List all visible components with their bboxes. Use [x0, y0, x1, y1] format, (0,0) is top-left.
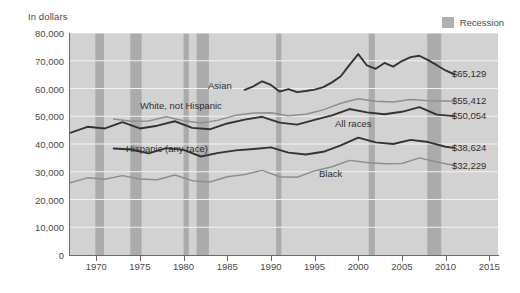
series-annotation: All races: [335, 118, 371, 129]
x-tick-label: 1980: [173, 261, 194, 272]
chart-legend: Recession: [442, 17, 504, 28]
series-end-label: $65,129: [452, 68, 486, 79]
series-end-label: $55,412: [452, 95, 486, 106]
series-line: [245, 54, 455, 92]
series-end-label: $32,229: [452, 160, 486, 171]
y-tick-label: 60,000: [35, 83, 64, 94]
y-axis-tick-labels: 010,00020,00030,00040,00050,00060,00070,…: [0, 0, 64, 293]
y-tick-label: 80,000: [35, 28, 64, 39]
y-tick-label: 50,000: [35, 111, 64, 122]
x-tick-label: 1995: [304, 261, 325, 272]
series-line: [70, 107, 454, 133]
y-tick-label: 10,000: [35, 222, 64, 233]
series-annotation: Hispanic (any race): [126, 143, 208, 154]
series-line: [70, 158, 454, 183]
y-axis-line: [69, 33, 70, 256]
x-tick-label: 2015: [479, 261, 500, 272]
x-tick-label: 1990: [260, 261, 281, 272]
y-tick-label: 30,000: [35, 166, 64, 177]
chart-figure: In dollars Recession 010,00020,00030,000…: [0, 0, 520, 293]
series-end-label: $38,624: [452, 142, 486, 153]
series-annotation: White, not Hispanic: [140, 100, 222, 111]
series-annotation: Black: [319, 168, 342, 179]
x-tick-label: 2010: [435, 261, 456, 272]
y-tick-label: 20,000: [35, 194, 64, 205]
y-tick-label: 0: [59, 250, 64, 261]
recession-legend-label: Recession: [460, 17, 504, 28]
y-tick-label: 40,000: [35, 139, 64, 150]
x-tick-label: 2000: [348, 261, 369, 272]
x-tick-label: 1985: [217, 261, 238, 272]
x-tick-label: 2005: [391, 261, 412, 272]
x-axis-line: [69, 255, 499, 256]
series-annotation: Asian: [208, 80, 232, 91]
recession-legend-swatch: [442, 17, 454, 28]
series-end-label: $50,054: [452, 110, 486, 121]
y-tick-label: 70,000: [35, 55, 64, 66]
x-tick-label: 1975: [129, 261, 150, 272]
x-tick-label: 1970: [86, 261, 107, 272]
